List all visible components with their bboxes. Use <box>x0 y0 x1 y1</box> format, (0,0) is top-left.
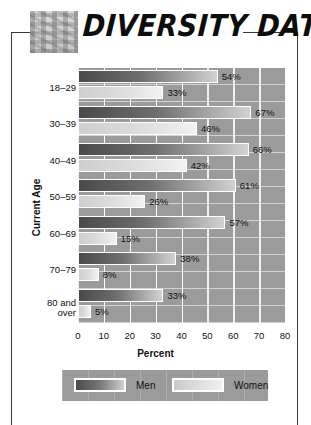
bar-men <box>78 70 218 83</box>
bar-value-women: 46% <box>201 123 220 134</box>
bar-men <box>78 179 236 192</box>
x-axis-tick-label: 80 <box>274 330 296 341</box>
x-axis-ticks: 01020304050607080 <box>0 330 311 344</box>
legend-label-men: Men <box>136 380 155 391</box>
bar-women <box>78 159 187 172</box>
bar-value-women: 26% <box>149 196 168 207</box>
legend-label-women: Women <box>234 380 268 391</box>
y-axis-category-label: 50–59 <box>24 192 76 202</box>
bar-value-women: 8% <box>103 269 117 280</box>
bar-women <box>78 86 163 99</box>
bar-value-men: 33% <box>167 290 186 301</box>
bar-value-women: 15% <box>121 233 140 244</box>
bar-value-men: 38% <box>180 253 199 264</box>
x-axis-label: Percent <box>0 348 311 359</box>
x-axis-tick-label: 50 <box>196 330 218 341</box>
x-axis-tick-label: 40 <box>171 330 193 341</box>
bar-men <box>78 143 249 156</box>
y-axis-category-label: 18–29 <box>24 83 76 93</box>
y-axis-category-label: 60–69 <box>24 229 76 239</box>
bar-men <box>78 289 163 302</box>
chart-legend: Men Women <box>62 370 268 401</box>
bar-women <box>78 305 91 318</box>
bar-value-women: 42% <box>191 160 210 171</box>
chart-header: DIVERSITY DATA <box>0 0 311 62</box>
bar-value-men: 66% <box>253 144 272 155</box>
x-axis-tick-label: 0 <box>67 330 89 341</box>
mosaic-tiles-icon <box>30 11 78 53</box>
legend-swatch-women <box>172 378 224 392</box>
bar-men <box>78 252 176 265</box>
x-axis-tick-label: 60 <box>222 330 244 341</box>
y-axis-category-label: 40–49 <box>24 156 76 166</box>
x-axis-tick-label: 30 <box>145 330 167 341</box>
bar-value-men: 54% <box>222 71 241 82</box>
x-axis-tick-label: 10 <box>93 330 115 341</box>
page-title: DIVERSITY DATA <box>82 8 311 43</box>
bar-women <box>78 195 145 208</box>
bar-value-women: 5% <box>95 306 109 317</box>
bar-men <box>78 216 225 229</box>
legend-swatch-men <box>74 378 126 392</box>
y-axis-categories: 18–2930–3940–4950–5960–6970–7980 andover <box>24 62 76 327</box>
bar-value-men: 57% <box>229 217 248 228</box>
x-axis-tick-label: 20 <box>119 330 141 341</box>
y-axis-category-label: 70–79 <box>24 265 76 275</box>
bar-value-men: 67% <box>255 107 274 118</box>
gridline <box>259 68 260 323</box>
bar-value-women: 33% <box>167 87 186 98</box>
y-axis-category-label: 80 andover <box>24 298 76 318</box>
x-axis-tick-label: 70 <box>248 330 270 341</box>
plot-area: 54%33%67%46%66%42%61%26%57%15%38%8%33%5% <box>78 68 285 323</box>
bar-value-men: 61% <box>240 180 259 191</box>
bar-men <box>78 106 251 119</box>
y-axis-category-label: 30–39 <box>24 119 76 129</box>
bar-women <box>78 232 117 245</box>
bar-women <box>78 122 197 135</box>
bar-chart: Current Age 18–2930–3940–4950–5960–6970–… <box>0 62 311 362</box>
bar-women <box>78 268 99 281</box>
